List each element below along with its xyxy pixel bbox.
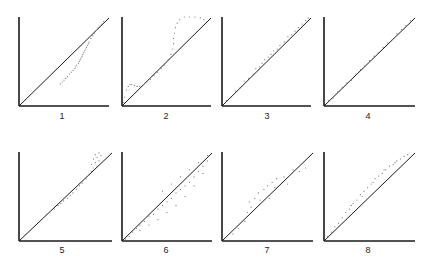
data-point [173,43,174,44]
data-point [162,191,163,192]
data-point [139,224,140,225]
data-point [260,200,261,201]
qq-panel-6 [122,152,212,241]
data-point [70,195,71,196]
data-point [63,80,64,81]
data-point [80,59,81,60]
data-point [328,100,329,101]
data-point [202,166,203,167]
data-point [308,17,309,18]
data-point [171,183,172,184]
data-point [198,171,199,172]
data-point [72,70,73,71]
data-point [184,196,185,197]
data-point [283,176,284,177]
data-point [371,183,372,184]
data-point [95,154,96,155]
data-point [175,192,176,193]
data-point [383,47,384,48]
data-point [291,34,292,35]
data-point [342,87,343,88]
data-point [153,214,154,215]
data-point [259,66,260,67]
data-point [126,89,127,90]
data-point [238,228,239,229]
data-point [173,38,174,39]
data-point [355,73,356,74]
data-point [401,29,402,30]
data-point [385,169,386,170]
data-point [393,164,394,165]
data-point [272,182,273,183]
data-point [72,192,73,193]
data-point [71,72,72,73]
data-point [254,198,255,199]
data-point [180,176,181,177]
data-point [157,72,158,73]
data-point [161,68,162,69]
data-point [93,159,94,160]
data-point [373,182,374,183]
qq-panel-4 [324,17,415,106]
data-point [200,17,201,18]
data-point [184,16,185,17]
data-point [404,156,405,157]
data-point [305,20,306,21]
data-point [392,39,393,40]
data-point [143,84,144,85]
data-point [137,86,138,87]
data-point [65,78,66,79]
data-point [124,97,125,98]
data-point [305,167,306,168]
data-point [389,166,390,167]
data-point [202,173,203,174]
data-point [74,68,75,69]
data-point [374,56,375,57]
data-point [251,207,252,208]
qq-panel-8 [324,152,415,241]
data-point [157,219,158,220]
data-point [88,43,89,44]
data-point [58,205,59,206]
data-point [273,50,274,51]
data-point [189,182,190,183]
reference-line [324,18,415,106]
data-point [360,69,361,70]
data-point [364,65,365,66]
data-point [269,198,270,199]
data-point [410,20,411,21]
data-point [292,169,293,170]
data-point [103,21,104,22]
data-point [274,187,275,188]
data-point [298,27,299,28]
qq-panel-5 [19,152,112,241]
data-point [193,185,194,186]
data-point [146,81,147,82]
data-point [194,16,195,17]
data-point [95,162,96,163]
data-point [367,187,368,188]
data-point [54,208,55,209]
data-point [400,159,401,160]
data-point [92,35,93,36]
data-point [175,27,176,28]
data-point [179,19,180,20]
data-point [166,212,167,213]
data-point [100,155,101,156]
data-point [89,41,90,42]
data-point [153,75,154,76]
data-point [67,198,68,199]
data-point [97,157,98,158]
data-point [134,85,135,86]
data-point [177,23,178,24]
panel-label-8: 8 [358,245,378,255]
reference-line [222,18,311,106]
data-point [247,212,248,213]
reference-line [122,153,212,241]
data-point [262,63,263,64]
data-point [351,205,352,206]
data-point [78,63,79,64]
data-point [148,224,149,225]
data-point [144,221,145,222]
data-point [148,216,149,217]
